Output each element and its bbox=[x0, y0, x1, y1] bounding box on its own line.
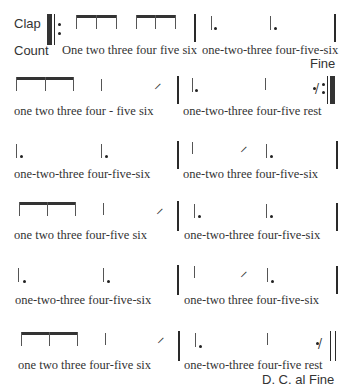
dot bbox=[199, 345, 202, 348]
note-stem bbox=[45, 77, 46, 91]
count-text: one two three four-five six bbox=[14, 228, 147, 243]
dc-al-fine-label: D. C. al Fine bbox=[262, 372, 334, 386]
bar-line bbox=[178, 331, 180, 361]
dot bbox=[274, 27, 277, 30]
dot bbox=[271, 280, 274, 283]
eighth-rest-icon: / bbox=[315, 83, 319, 95]
dot bbox=[107, 280, 110, 283]
note-stem bbox=[16, 77, 17, 91]
bar-line bbox=[177, 265, 179, 295]
bar-line bbox=[336, 141, 338, 169]
bar-line bbox=[177, 141, 179, 169]
note-stem bbox=[47, 202, 48, 216]
dot bbox=[270, 155, 273, 158]
bar-line bbox=[336, 266, 338, 294]
count-text: one-two-three four-five rest bbox=[183, 104, 322, 119]
note-stem bbox=[195, 333, 196, 347]
count-text: one-two-three four-five-six bbox=[14, 167, 150, 182]
count-text: one-two three four-five-six bbox=[183, 167, 318, 182]
clap-label: Clap bbox=[14, 16, 41, 31]
eighth-note-icon: ⸝ bbox=[240, 139, 248, 154]
note-stem bbox=[211, 16, 212, 30]
beam bbox=[136, 15, 176, 18]
note-stem bbox=[194, 266, 195, 278]
note-stem bbox=[116, 15, 117, 29]
note-stem bbox=[103, 268, 104, 282]
bar-line bbox=[177, 201, 179, 231]
note-stem bbox=[16, 144, 17, 158]
dot bbox=[20, 155, 23, 158]
count-text: one-two-three four-five-six bbox=[15, 293, 151, 308]
count-text: one-two-three four-five-six bbox=[184, 228, 320, 243]
note-stem bbox=[136, 15, 137, 29]
note-stem bbox=[192, 142, 193, 154]
eighth-note-icon: ⸝ bbox=[240, 264, 248, 279]
repeat-dot bbox=[322, 83, 325, 86]
bar-line bbox=[334, 14, 336, 42]
repeat-dot bbox=[58, 32, 61, 35]
eighth-note-icon: ⸝ bbox=[156, 201, 164, 216]
count-text: one two three four-five six bbox=[18, 358, 151, 373]
repeat-start-thin-bar bbox=[54, 14, 55, 45]
eighth-rest-icon: / bbox=[318, 338, 322, 350]
note-stem bbox=[101, 79, 102, 91]
dot bbox=[214, 27, 217, 30]
repeat-start-thick-bar bbox=[47, 14, 52, 45]
fine-label: Fine bbox=[310, 56, 335, 71]
bar-line bbox=[177, 76, 179, 104]
note-stem bbox=[267, 333, 268, 345]
note-stem bbox=[49, 332, 50, 346]
bar-line bbox=[194, 14, 196, 42]
dot bbox=[270, 215, 273, 218]
note-stem bbox=[101, 144, 102, 158]
count-text: One two three four five six bbox=[62, 43, 197, 58]
count-text: one-two-three four-five rest bbox=[184, 358, 323, 373]
note-stem bbox=[18, 268, 19, 282]
note-stem bbox=[75, 202, 76, 216]
note-stem bbox=[192, 78, 193, 92]
dot bbox=[195, 89, 198, 92]
note-stem bbox=[175, 15, 176, 29]
repeat-dot bbox=[58, 23, 61, 26]
note-stem bbox=[96, 15, 97, 29]
count-label: Count bbox=[14, 43, 49, 58]
note-stem bbox=[103, 203, 104, 215]
note-stem bbox=[105, 333, 106, 345]
note-stem bbox=[155, 15, 156, 29]
dot bbox=[105, 155, 108, 158]
final-bar-thin bbox=[330, 331, 331, 361]
note-stem bbox=[19, 202, 20, 216]
dot bbox=[23, 280, 26, 283]
dot bbox=[198, 215, 201, 218]
note-stem bbox=[76, 15, 77, 29]
note-stem bbox=[77, 332, 78, 346]
note-stem bbox=[266, 144, 267, 158]
note-stem bbox=[270, 16, 271, 30]
note-stem bbox=[265, 78, 266, 90]
final-bar-thin bbox=[335, 331, 336, 361]
repeat-end-thick-bar bbox=[330, 76, 335, 104]
note-stem bbox=[266, 204, 267, 218]
count-text: one two three four - five six bbox=[14, 104, 154, 119]
eighth-note-icon: ⸝ bbox=[157, 330, 165, 345]
note-stem bbox=[267, 268, 268, 282]
note-stem bbox=[73, 77, 74, 91]
bar-line bbox=[336, 203, 338, 231]
note-stem bbox=[194, 204, 195, 218]
note-stem bbox=[21, 332, 22, 346]
repeat-dot bbox=[322, 91, 325, 94]
repeat-end-thin-bar bbox=[327, 76, 328, 104]
count-text: one-two three four-five-six bbox=[184, 293, 319, 308]
eighth-note-icon: ⸝ bbox=[154, 76, 162, 91]
